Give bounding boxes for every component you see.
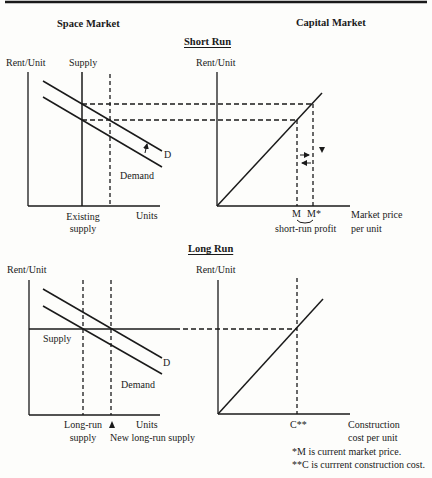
sr-demand-shift-arrow: [145, 144, 147, 153]
lr-x-axis-label-1: Construction: [348, 419, 400, 431]
new-longrun-supply-label: New long-run supply: [110, 432, 195, 444]
sr-d-label: D: [164, 149, 171, 161]
short-run-profit-label: short-run profit: [275, 223, 336, 235]
lr-up-triangle-icon: [109, 421, 115, 428]
sr-demand-d-line: [43, 81, 162, 151]
lr-longrun-label-2: supply: [61, 432, 105, 444]
sr-units-label: Units: [136, 210, 158, 222]
sr-existing-label-1: Existing: [62, 211, 104, 223]
footnote-m: *M is current market price.: [292, 446, 401, 458]
lr-supply-label: Supply: [43, 333, 71, 345]
sr-supply-label: Supply: [69, 57, 97, 69]
long-run-header: Long Run: [188, 243, 233, 255]
sr-existing-label-2: supply: [62, 223, 104, 235]
sr-valuation-line: [217, 93, 322, 206]
lr-demand-d-line: [43, 289, 162, 358]
capital-market-header: Capital Market: [296, 17, 366, 29]
sr-down-triangle-icon: [319, 147, 325, 153]
sr-demand-label: Demand: [120, 170, 154, 182]
lr-capital-y-label: Rent/Unit: [196, 264, 235, 276]
footnote-c: **C is currrent construction cost.: [292, 459, 425, 471]
sr-capital-graph: [217, 72, 350, 223]
space-market-header: Space Market: [57, 18, 120, 30]
short-run-header: Short Run: [184, 36, 231, 48]
lr-cost-line: [218, 299, 323, 414]
m-star-label: M*: [307, 208, 321, 220]
lr-space-y-label: Rent/Unit: [7, 264, 46, 276]
lr-longrun-label-1: Long-run: [61, 419, 105, 431]
m-label: M: [292, 208, 301, 220]
lr-demand-label: Demand: [121, 379, 155, 391]
lr-capital-graph: [218, 278, 350, 414]
sr-space-y-label: Rent/Unit: [6, 57, 45, 69]
lr-units-label: Units: [136, 419, 158, 431]
sr-space-graph: [28, 72, 162, 206]
lr-x-axis-label-2: cost per unit: [348, 432, 397, 444]
lr-space-graph: [29, 280, 175, 415]
four-quadrant-diagram: [0, 0, 432, 478]
sr-x-axis-label-1: Market price: [351, 209, 402, 221]
sr-x-axis-label-2: per unit: [351, 223, 382, 235]
sr-demand-line: [43, 97, 162, 167]
lr-d-label: D: [163, 357, 170, 369]
c-label: C**: [290, 419, 307, 431]
sr-capital-y-label: Rent/Unit: [196, 57, 235, 69]
